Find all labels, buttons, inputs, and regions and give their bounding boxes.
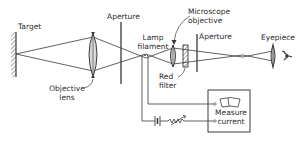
eyepiece-lens: [271, 43, 275, 69]
objective-lens-label-line2: lens: [49, 94, 85, 103]
objective-lens: [89, 32, 97, 78]
lamp-filament: [142, 55, 148, 122]
ammeter-dial-icon: [220, 98, 240, 108]
rheostat-icon: [168, 116, 186, 126]
measure-current-label: Measure current: [213, 109, 249, 126]
eyepiece-label: Eyepiece: [261, 34, 295, 43]
objective-lens-leader: [84, 79, 93, 88]
red-filter-label: Red filter: [159, 73, 176, 90]
lamp-filament-label-line2: filament: [136, 43, 170, 52]
microscope-objective-arrow-icon: [172, 40, 177, 45]
red-filter: [183, 45, 188, 67]
microscope-objective-lens: [171, 45, 176, 67]
target-label: Target: [18, 23, 41, 32]
aperture-2-label: Aperture: [199, 33, 232, 42]
aperture-1-label: Aperture: [107, 13, 140, 22]
microscope-objective-label-line2: objective: [188, 17, 230, 26]
target-wall: [11, 32, 16, 77]
battery-icon: [155, 116, 160, 126]
optical-pyrometer-diagram: [0, 0, 306, 141]
eye-icon: [282, 51, 292, 60]
red-filter-label-line2: filter: [159, 82, 176, 91]
lamp-filament-label: Lamp filament: [136, 34, 170, 51]
microscope-objective-label: Microscope objective: [188, 8, 230, 25]
red-filter-leader: [178, 68, 185, 77]
measure-current-label-line2: current: [213, 118, 249, 127]
objective-lens-label: Objective lens: [49, 85, 85, 102]
